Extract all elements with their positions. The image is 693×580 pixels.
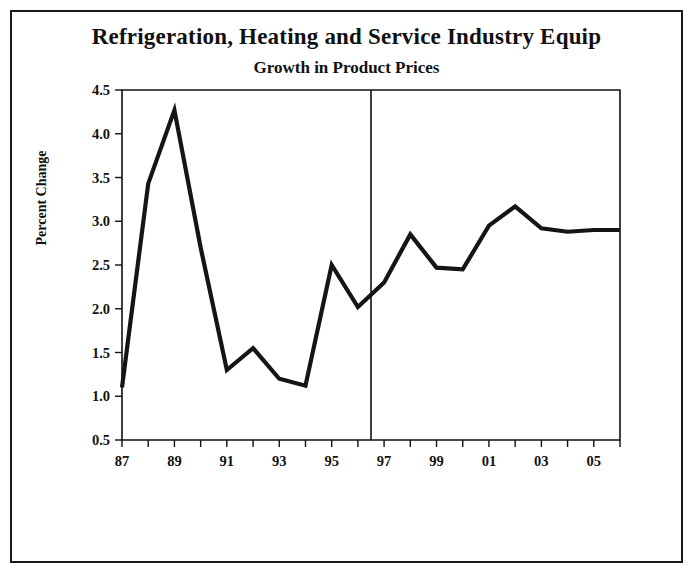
y-tick-label: 4.0: [92, 126, 110, 142]
y-tick-label: 3.5: [92, 170, 110, 186]
x-tick-label: 93: [272, 453, 287, 469]
x-tick-label: 87: [115, 453, 130, 469]
y-tick-label: 1.5: [92, 345, 110, 361]
y-axis-ticks: 0.51.01.52.02.53.03.54.04.5: [92, 82, 122, 448]
x-tick-label: 03: [534, 453, 549, 469]
x-tick-label: 99: [429, 453, 444, 469]
y-tick-label: 4.5: [92, 82, 110, 98]
plot-area: 0.51.01.52.02.53.03.54.04.5 878991939597…: [0, 0, 693, 580]
x-tick-label: 91: [220, 453, 235, 469]
y-tick-label: 1.0: [92, 388, 110, 404]
x-axis-ticks: 87899193959799010305: [115, 440, 620, 469]
y-tick-label: 2.5: [92, 257, 110, 273]
y-tick-label: 3.0: [92, 213, 110, 229]
y-tick-label: 2.0: [92, 301, 110, 317]
x-tick-label: 95: [324, 453, 339, 469]
x-tick-label: 97: [377, 453, 392, 469]
y-tick-label: 0.5: [92, 432, 110, 448]
x-tick-label: 89: [167, 453, 182, 469]
x-tick-label: 01: [482, 453, 497, 469]
chart-figure: Refrigeration, Heating and Service Indus…: [0, 0, 693, 580]
x-tick-label: 05: [587, 453, 602, 469]
